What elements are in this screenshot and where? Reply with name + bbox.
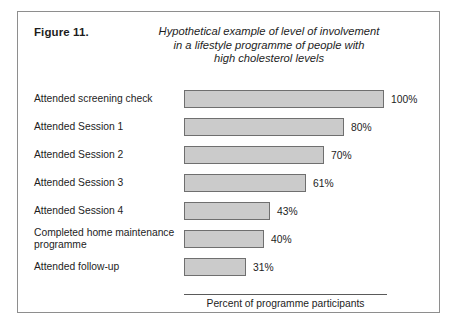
bar-category-label: Attended follow-up (34, 261, 182, 273)
bar (184, 90, 384, 108)
bar-category-label: Attended screening check (34, 93, 182, 105)
bar-track (184, 174, 306, 192)
bar (184, 118, 344, 136)
bar-chart-row: Completed home maintenanceprogramme40% (18, 230, 439, 248)
bar-chart: Attended screening check100%Attended Ses… (18, 78, 439, 314)
bar-value-label: 70% (331, 150, 352, 161)
bar-chart-row: Attended follow-up31% (18, 258, 439, 276)
bar-category-label-line-2: programme (34, 239, 182, 251)
bar-track (184, 230, 264, 248)
bar-category-label: Attended Session 3 (34, 177, 182, 189)
figure-title-line-1: Hypothetical example of level of involve… (114, 25, 424, 39)
bar (184, 258, 246, 276)
bar-track (184, 146, 324, 164)
figure-number-label: Figure 11. (34, 26, 89, 38)
bar (184, 202, 270, 220)
bar-value-label: 43% (277, 206, 298, 217)
bar-category-label: Completed home maintenanceprogramme (34, 227, 182, 251)
bar-chart-row: Attended Session 443% (18, 202, 439, 220)
x-axis-caption: Percent of programme participants (184, 298, 387, 309)
bar-category-label: Attended Session 2 (34, 149, 182, 161)
figure-title-line-2: in a lifestyle programme of people with (114, 39, 424, 53)
bar-value-label: 100% (391, 94, 417, 105)
bar (184, 230, 264, 248)
bar-track (184, 202, 270, 220)
bar-category-label: Attended Session 4 (34, 205, 182, 217)
bar-chart-row: Attended Session 180% (18, 118, 439, 136)
bar-value-label: 40% (271, 234, 292, 245)
bar-track (184, 90, 384, 108)
figure-title-line-3: high cholesterol levels (114, 52, 424, 66)
figure-title: Hypothetical example of level of involve… (114, 25, 424, 66)
bar-category-label: Attended Session 1 (34, 121, 182, 133)
bar-value-label: 80% (351, 122, 372, 133)
bar-chart-row: Attended screening check100% (18, 90, 439, 108)
bar-category-label-line-1: Completed home maintenance (34, 227, 182, 239)
bar-track (184, 258, 246, 276)
bar-chart-row: Attended Session 361% (18, 174, 439, 192)
bar-track (184, 118, 344, 136)
figure-frame: Figure 11. Hypothetical example of level… (17, 11, 440, 313)
bar-value-label: 31% (253, 262, 274, 273)
bar-value-label: 61% (313, 178, 334, 189)
bar-chart-row: Attended Session 270% (18, 146, 439, 164)
x-axis-line (184, 294, 387, 295)
bar (184, 146, 324, 164)
bar (184, 174, 306, 192)
figure-header: Figure 11. Hypothetical example of level… (18, 22, 439, 78)
